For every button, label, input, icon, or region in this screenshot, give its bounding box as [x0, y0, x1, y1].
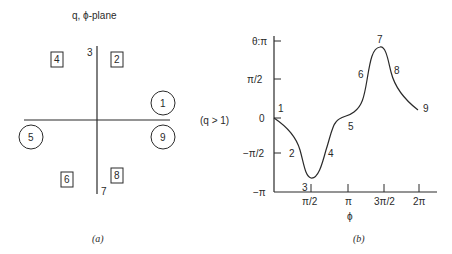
- curve-label-9: 9: [423, 103, 429, 114]
- curve-label-8: 8: [394, 65, 400, 76]
- ytick-label-neg-pi-half: −π/2: [243, 148, 265, 159]
- x-axis-label: ϕ: [347, 211, 353, 222]
- circle-1-label: 1: [160, 98, 166, 109]
- label-3: 3: [87, 47, 93, 58]
- curve-label-4: 4: [328, 148, 334, 159]
- condition-label: (q > 1): [200, 115, 229, 126]
- xtick-label-2pi: 2π: [413, 196, 426, 207]
- label-7: 7: [101, 186, 107, 197]
- figure: q, ϕ-plane 3 7 4 2 6 8 1 5 9 (a) (q > 1)…: [0, 0, 452, 254]
- curve-label-3: 3: [302, 182, 308, 193]
- xtick-label-pi: π: [345, 196, 352, 207]
- ytick-label-zero: 0: [259, 113, 265, 124]
- xtick-label-pi-half: π/2: [302, 196, 318, 207]
- box-4-label: 4: [54, 54, 60, 65]
- ytick-label-pi: θ:π: [252, 36, 267, 47]
- xtick-label-3pi-half: 3π/2: [374, 196, 395, 207]
- ytick-label-neg-pi: −π: [253, 187, 266, 198]
- box-6-label: 6: [64, 174, 70, 185]
- curve-label-1: 1: [278, 103, 284, 114]
- box-2-label: 2: [114, 54, 120, 65]
- curve-label-2: 2: [289, 148, 295, 159]
- ytick-label-pi-half: π/2: [247, 74, 263, 85]
- panel-a-title: q, ϕ-plane: [72, 10, 117, 21]
- curve-label-5: 5: [348, 121, 354, 132]
- curve-label-7: 7: [377, 34, 383, 45]
- curve-label-6: 6: [358, 69, 364, 80]
- panel-b-caption: (b): [353, 233, 365, 245]
- box-8-label: 8: [114, 170, 120, 181]
- circle-5-label: 5: [28, 132, 34, 143]
- circle-9-label: 9: [160, 132, 166, 143]
- panel-a-caption: (a): [92, 233, 104, 245]
